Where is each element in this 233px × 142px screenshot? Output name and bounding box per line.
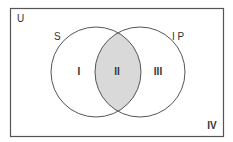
venn-diagram: U S I P I II III IV [0,0,233,142]
set-ip-label: I P [172,31,185,42]
region-iii-label: III [154,66,163,77]
set-s-label: S [54,31,61,42]
region-ii-label: II [114,66,120,77]
universe-label: U [17,13,24,24]
region-iv-label: IV [207,120,217,131]
region-i-label: I [78,66,81,77]
